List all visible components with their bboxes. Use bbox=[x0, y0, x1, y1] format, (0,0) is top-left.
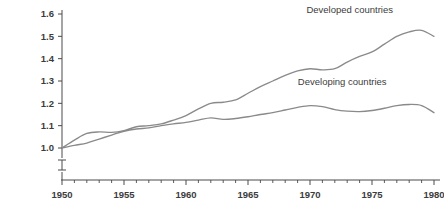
y-tick-label: 1.3 bbox=[41, 75, 54, 86]
axis-break-zigzag bbox=[58, 160, 66, 170]
x-tick-label: 1975 bbox=[361, 189, 383, 200]
x-tick-label: 1970 bbox=[299, 189, 320, 200]
data-line-developed bbox=[62, 30, 434, 148]
x-tick-label: 1965 bbox=[237, 189, 259, 200]
chart-container: 1.01.11.21.31.41.51.6 195019551960196519… bbox=[0, 0, 444, 213]
y-tick-label: 1.6 bbox=[41, 8, 54, 19]
data-line-developing bbox=[62, 104, 434, 148]
x-axis: 1950195519601965197019751980 bbox=[51, 172, 444, 200]
y-tick-label: 1.4 bbox=[41, 53, 55, 64]
series-label-developed: Developed countries bbox=[306, 4, 393, 15]
x-tick-label: 1960 bbox=[175, 189, 196, 200]
series-labels-group: Developed countriesDeveloping countries bbox=[298, 4, 393, 87]
axis-break-mark bbox=[58, 160, 66, 170]
x-tick-label: 1980 bbox=[423, 189, 444, 200]
x-tick-label: 1955 bbox=[113, 189, 135, 200]
series-label-developing: Developing countries bbox=[298, 76, 387, 87]
y-tick-label: 1.1 bbox=[41, 120, 55, 131]
x-tick-label: 1950 bbox=[51, 189, 72, 200]
data-series-group bbox=[62, 30, 434, 148]
y-axis: 1.01.11.21.31.41.51.6 bbox=[41, 8, 62, 158]
y-tick-label: 1.0 bbox=[41, 142, 54, 153]
y-tick-label: 1.5 bbox=[41, 31, 55, 42]
line-chart: 1.01.11.21.31.41.51.6 195019551960196519… bbox=[0, 0, 444, 213]
y-tick-label: 1.2 bbox=[41, 98, 54, 109]
